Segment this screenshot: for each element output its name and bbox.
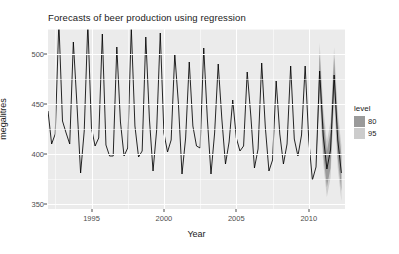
gridline-minor-vertical xyxy=(273,29,274,209)
gridline-minor-vertical xyxy=(128,29,129,209)
gridline-minor-vertical xyxy=(55,29,56,209)
legend-swatch-icon xyxy=(354,116,365,127)
gridline-major-vertical xyxy=(164,29,165,209)
gridline-major-horizontal xyxy=(48,54,345,55)
gridline-major-horizontal xyxy=(48,154,345,155)
y-axis-tick-mark xyxy=(44,54,47,55)
legend-item-label: 80 xyxy=(368,117,376,126)
x-axis-tick-label: 1995 xyxy=(83,214,100,223)
y-axis-tick-label: 350 xyxy=(31,200,44,209)
y-axis-tick-label: 500 xyxy=(31,50,44,59)
legend-item[interactable]: 95 xyxy=(354,128,376,139)
chart-root: Forecasts of beer production using regre… xyxy=(0,0,399,254)
y-axis-tick-label: 400 xyxy=(31,150,44,159)
legend-item-label: 95 xyxy=(368,129,376,138)
legend-title: level xyxy=(354,104,376,113)
x-axis-tick-mark xyxy=(308,209,309,212)
y-axis-tick-mark xyxy=(44,204,47,205)
legend-entries: 8095 xyxy=(354,116,376,139)
gridline-minor-horizontal xyxy=(48,179,345,180)
gridline-major-vertical xyxy=(92,29,93,209)
gridline-minor-horizontal xyxy=(48,79,345,80)
y-axis-tick-mark xyxy=(44,154,47,155)
y-axis-title: megalitres xyxy=(0,98,8,140)
x-axis-tick-mark xyxy=(91,209,92,212)
series-layer xyxy=(48,29,345,209)
x-axis-tick-label: 2010 xyxy=(300,214,317,223)
y-axis-tick-mark xyxy=(44,104,47,105)
plot-panel xyxy=(48,29,345,209)
gridline-minor-vertical xyxy=(200,29,201,209)
gridline-major-vertical xyxy=(236,29,237,209)
x-axis-tick-label: 2005 xyxy=(228,214,245,223)
x-axis-tick-label: 2000 xyxy=(156,214,173,223)
x-axis-tick-mark xyxy=(236,209,237,212)
legend-swatch-icon xyxy=(354,128,365,139)
x-axis-title: Year xyxy=(48,229,345,239)
chart-title: Forecasts of beer production using regre… xyxy=(48,12,246,23)
gridline-major-horizontal xyxy=(48,204,345,205)
gridline-major-horizontal xyxy=(48,104,345,105)
legend-item[interactable]: 80 xyxy=(354,116,376,127)
gridline-major-vertical xyxy=(309,29,310,209)
y-axis-tick-label: 450 xyxy=(31,100,44,109)
x-axis-tick-mark xyxy=(163,209,164,212)
gridline-minor-horizontal xyxy=(48,29,345,30)
legend: level 8095 xyxy=(354,104,376,140)
gridline-minor-horizontal xyxy=(48,129,345,130)
